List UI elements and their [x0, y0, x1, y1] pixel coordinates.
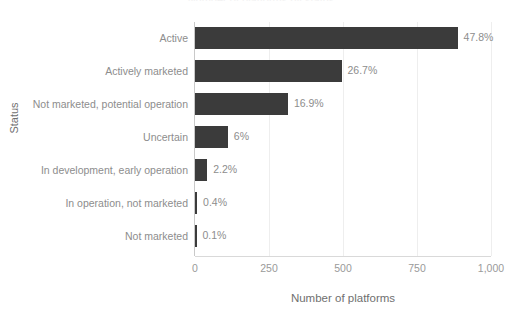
x-axis-tick-label: 0	[192, 262, 198, 274]
y-axis-tick-labels: ActiveActively marketedNot marketed, pot…	[0, 22, 188, 256]
y-axis-tick-label: Not marketed, potential operation	[2, 98, 188, 110]
bar-value-label: 6%	[234, 130, 249, 142]
chart-title: Number of platforms by status	[0, 0, 522, 1]
bar-value-label: 0.4%	[203, 196, 227, 208]
bar[interactable]	[195, 159, 207, 181]
x-axis-tick-label: 750	[408, 262, 426, 274]
x-axis-tick-label: 500	[334, 262, 352, 274]
plot-area: 47.8%26.7%16.9%6%2.2%0.4%0.1%	[195, 22, 491, 256]
bar-chart: Number of platforms by status Status Act…	[0, 0, 522, 320]
y-axis-tick-label: In development, early operation	[2, 164, 188, 176]
bar-value-label: 26.7%	[348, 64, 378, 76]
bar-row[interactable]: 6%	[195, 121, 491, 154]
bar-row[interactable]: 16.9%	[195, 88, 491, 121]
bar[interactable]	[195, 126, 228, 148]
x-axis-line	[195, 256, 491, 257]
bar-value-label: 47.8%	[464, 31, 494, 43]
bar-row[interactable]: 26.7%	[195, 55, 491, 88]
y-axis-tick-label: Actively marketed	[2, 65, 188, 77]
x-axis-tick-labels: 02505007501,000	[195, 262, 491, 278]
y-axis-tick-label: Active	[2, 32, 188, 44]
x-axis-title: Number of platforms	[195, 292, 491, 304]
bar[interactable]	[195, 93, 288, 115]
y-axis-tick-label: In operation, not marketed	[2, 197, 188, 209]
x-axis-tick-label: 250	[260, 262, 278, 274]
gridline	[491, 22, 492, 256]
bar-row[interactable]: 0.1%	[195, 220, 491, 253]
x-axis-tick-label: 1,000	[478, 262, 504, 274]
y-axis-tick-label: Not marketed	[2, 230, 188, 242]
bar-row[interactable]: 0.4%	[195, 187, 491, 220]
y-axis-tick-label: Uncertain	[2, 131, 188, 143]
bar-value-label: 16.9%	[294, 97, 324, 109]
bar[interactable]	[195, 225, 197, 247]
bar-value-label: 2.2%	[213, 163, 237, 175]
bar[interactable]	[195, 192, 197, 214]
bar[interactable]	[195, 27, 458, 49]
bar[interactable]	[195, 60, 342, 82]
bar-value-label: 0.1%	[203, 229, 227, 241]
bar-row[interactable]: 2.2%	[195, 154, 491, 187]
bar-row[interactable]: 47.8%	[195, 22, 491, 55]
